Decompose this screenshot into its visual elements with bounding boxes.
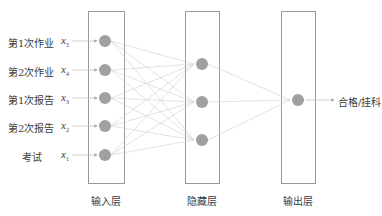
input-var-4: x2 <box>61 119 69 133</box>
input-label-1: 第1次作业 <box>8 35 54 50</box>
output-label: 合格/挂科 <box>338 94 381 109</box>
hidden-nodes <box>196 58 208 146</box>
input-layer-label: 输入层 <box>76 193 136 208</box>
input-label-2: 第2次作业 <box>8 64 54 79</box>
output-node <box>292 94 304 106</box>
hidden-output-edges <box>208 64 290 140</box>
input-var-2: x4 <box>61 63 69 77</box>
hidden-layer-label: 隐藏层 <box>172 193 232 208</box>
input-label-4: 第2次报告 <box>8 120 54 135</box>
output-layer-label: 输出层 <box>268 193 328 208</box>
input-arrows <box>72 41 97 155</box>
neural-network-diagram: 第1次作业 x5 第2次作业 x4 第1次报告 x3 第2次报告 x2 考试 x… <box>0 0 382 216</box>
input-hidden-edges <box>111 41 194 155</box>
input-var-1: x5 <box>61 34 69 48</box>
input-label-5: 考试 <box>22 149 42 164</box>
network-graphic <box>0 0 382 216</box>
input-nodes <box>99 35 111 161</box>
input-label-3: 第1次报告 <box>8 92 54 107</box>
input-var-5: x1 <box>61 148 69 162</box>
input-var-3: x3 <box>61 91 69 105</box>
